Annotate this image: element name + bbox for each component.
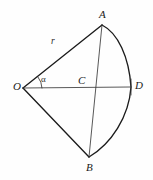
label-angle-alpha: α (41, 75, 46, 84)
label-point-d: D (135, 80, 143, 91)
radius-segment-oa (23, 25, 102, 88)
axis-segment-od (23, 87, 131, 88)
label-point-b: B (86, 162, 93, 173)
radius-segment-ob (23, 88, 89, 157)
figure-canvas (0, 0, 153, 180)
label-radius-r: r (51, 37, 55, 47)
geometry-figure: A B C D O r α (0, 0, 153, 180)
chord-segment-ab (89, 25, 102, 157)
label-point-o: O (13, 81, 21, 92)
label-point-c: C (78, 75, 85, 86)
label-point-a: A (99, 9, 106, 20)
